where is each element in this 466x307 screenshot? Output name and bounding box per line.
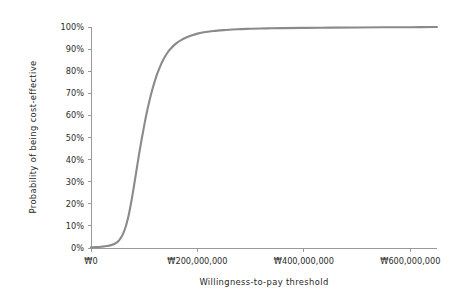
x-tick-label: ₩400,000,000	[274, 256, 334, 266]
y-tick-label: 60%	[66, 110, 84, 120]
y-axis-title: Probability of being cost-effective	[28, 61, 38, 214]
y-tick-label: 70%	[66, 88, 84, 98]
x-axis-ticks: ₩0₩200,000,000₩400,000,000₩600,000,000	[84, 248, 440, 266]
y-tick-label: 40%	[66, 155, 84, 165]
x-axis-title: Willingness-to-pay threshold	[199, 277, 328, 287]
y-tick-label: 0%	[71, 243, 84, 253]
chart-canvas: 0%10%20%30%40%50%60%70%80%90%100% ₩0₩200…	[0, 0, 466, 307]
y-tick-label: 30%	[66, 177, 84, 187]
y-tick-label: 20%	[66, 199, 84, 209]
x-tick-label: ₩0	[84, 256, 97, 266]
x-tick-label: ₩200,000,000	[167, 256, 227, 266]
x-axis-group: ₩0₩200,000,000₩400,000,000₩600,000,000	[84, 248, 440, 266]
y-axis-ticks: 0%10%20%30%40%50%60%70%80%90%100%	[61, 22, 91, 253]
plot-series-group	[91, 27, 437, 247]
y-tick-label: 10%	[66, 221, 84, 231]
ceac-chart: 0%10%20%30%40%50%60%70%80%90%100% ₩0₩200…	[0, 0, 466, 307]
ceac-curve-line	[91, 27, 437, 247]
y-tick-label: 100%	[61, 22, 85, 32]
y-tick-label: 90%	[66, 44, 84, 54]
x-tick-label: ₩600,000,000	[380, 256, 440, 266]
y-tick-label: 80%	[66, 66, 84, 76]
y-tick-label: 50%	[66, 133, 84, 143]
y-axis-group: 0%10%20%30%40%50%60%70%80%90%100%	[61, 22, 91, 253]
